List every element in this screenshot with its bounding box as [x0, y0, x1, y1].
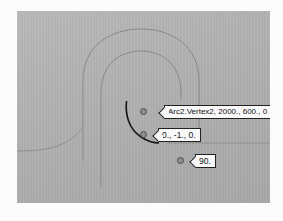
outer-guide-curve: [83, 29, 199, 161]
highlighted-arc-segment[interactable]: [126, 101, 159, 143]
cad-drawing-canvas[interactable]: Arc2.Vertex2, 2000., 600., 0 0., -1., 0.…: [17, 11, 270, 203]
lower-reference-curve: [17, 127, 83, 151]
inner-guide-curve: [101, 51, 181, 187]
geometry-layer: [17, 11, 270, 203]
screenshot-root: Arc2.Vertex2, 2000., 600., 0 0., -1., 0.…: [0, 0, 283, 221]
